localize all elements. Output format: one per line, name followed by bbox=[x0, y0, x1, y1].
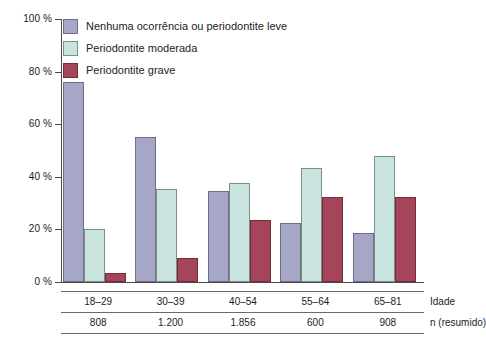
bar bbox=[177, 258, 198, 282]
y-axis-tick bbox=[55, 72, 62, 73]
y-axis-tick-label: 80 % bbox=[29, 67, 52, 77]
bar bbox=[395, 197, 416, 282]
table-rule-middle bbox=[61, 312, 424, 313]
series-0-swatch-icon bbox=[63, 19, 78, 34]
bar bbox=[105, 273, 126, 282]
row-label-n: n (resumido) bbox=[430, 318, 486, 328]
age-group-cell: 55–64 bbox=[279, 297, 351, 307]
bar bbox=[301, 168, 322, 282]
y-axis-tick bbox=[55, 282, 62, 283]
bar bbox=[156, 189, 177, 282]
y-axis-tick-label: 40 % bbox=[29, 172, 52, 182]
age-group-cell: 18–29 bbox=[62, 297, 134, 307]
legend-item-2: Periodontite grave bbox=[63, 60, 287, 80]
y-axis-tick bbox=[55, 229, 62, 230]
y-axis-tick bbox=[55, 124, 62, 125]
legend-label-2: Periodontite grave bbox=[86, 64, 175, 76]
bar-group bbox=[279, 19, 351, 282]
bar bbox=[63, 82, 84, 282]
bar bbox=[84, 229, 105, 282]
sample-size-cell: 1.200 bbox=[134, 318, 206, 328]
sample-size-cell: 808 bbox=[62, 318, 134, 328]
legend-label-0: Nenhuma ocorrência ou periodontite leve bbox=[86, 20, 287, 32]
bar bbox=[322, 197, 343, 282]
bar bbox=[135, 137, 156, 282]
sample-size-cell: 1.856 bbox=[207, 318, 279, 328]
bar bbox=[250, 220, 271, 282]
legend-label-1: Periodontite moderada bbox=[86, 42, 197, 54]
y-axis-tick-label: 20 % bbox=[29, 224, 52, 234]
bar bbox=[280, 223, 301, 282]
table-rule-top bbox=[61, 291, 424, 292]
bar bbox=[208, 191, 229, 282]
table-rule-bottom bbox=[61, 333, 424, 334]
y-axis-tick-label: 60 % bbox=[29, 119, 52, 129]
age-group-cell: 40–54 bbox=[207, 297, 279, 307]
x-axis-line bbox=[61, 282, 424, 283]
bar bbox=[374, 156, 395, 282]
series-2-swatch-icon bbox=[63, 63, 78, 78]
series-1-swatch-icon bbox=[63, 41, 78, 56]
bar bbox=[229, 183, 250, 282]
y-axis-tick-label: 100 % bbox=[23, 14, 52, 24]
sample-size-cell: 908 bbox=[352, 318, 424, 328]
y-axis-tick-label: 0 % bbox=[34, 277, 52, 287]
sample-size-cell: 600 bbox=[279, 318, 351, 328]
y-axis-tick bbox=[55, 177, 62, 178]
chart-legend: Nenhuma ocorrência ou periodontite leve … bbox=[63, 16, 287, 82]
y-axis-tick bbox=[55, 19, 62, 20]
row-label-idade: Idade bbox=[430, 297, 455, 307]
age-group-cell: 30–39 bbox=[134, 297, 206, 307]
legend-item-0: Nenhuma ocorrência ou periodontite leve bbox=[63, 16, 287, 36]
bar-group bbox=[352, 19, 424, 282]
bar bbox=[353, 233, 374, 282]
legend-item-1: Periodontite moderada bbox=[63, 38, 287, 58]
age-group-cell: 65–81 bbox=[352, 297, 424, 307]
